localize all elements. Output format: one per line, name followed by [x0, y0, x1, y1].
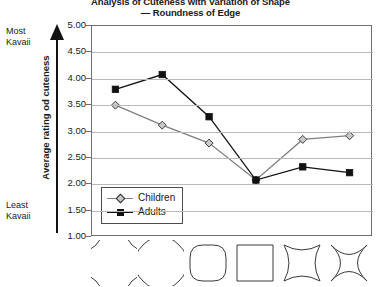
data-point-children-6[interactable]	[346, 132, 354, 140]
data-point-adults-6[interactable]	[346, 169, 352, 175]
shape-icon-1	[91, 240, 137, 286]
shape-icon-5	[279, 240, 325, 286]
chart-title-line1: Analysis of Cuteness with Variation of S…	[91, 0, 290, 7]
gridline	[92, 52, 373, 53]
legend: Children Adults	[101, 187, 183, 224]
concave-square-mild-icon	[284, 245, 320, 281]
y-tick-label: 3.00	[52, 126, 86, 136]
page-title: Analysis of Cuteness with Variation of S…	[0, 0, 381, 18]
y-tick-label: 3.50	[52, 99, 86, 109]
y-tick-label: 2.50	[52, 152, 86, 162]
shape-icon-2	[138, 240, 184, 286]
adults-series-key-icon	[107, 206, 133, 218]
square-icon	[237, 245, 273, 281]
rounded-square-icon	[190, 245, 226, 281]
y-tick-label: 2.00	[52, 178, 86, 188]
chart-title-line2: — Roundness of Edge	[0, 7, 381, 18]
y-tick-label: 4.00	[52, 73, 86, 83]
data-point-adults-5[interactable]	[300, 164, 306, 170]
shape-icon-3	[185, 240, 231, 286]
data-point-children-2[interactable]	[158, 121, 166, 129]
y-tick-label: 5.00	[52, 20, 86, 30]
data-point-adults-1[interactable]	[112, 86, 118, 92]
gridline	[92, 132, 373, 133]
plot-area: Children Adults	[91, 25, 372, 236]
children-series-key-icon	[107, 192, 133, 204]
series-line-adults	[115, 75, 349, 181]
data-point-adults-2[interactable]	[159, 71, 165, 77]
legend-label-children: Children	[138, 193, 175, 203]
gridline	[92, 184, 373, 185]
gridline	[92, 211, 373, 212]
gridline	[92, 105, 373, 106]
y-tick-label: 1.00	[52, 231, 86, 241]
legend-item-adults[interactable]: Adults	[107, 205, 175, 219]
shape-icon-6	[326, 240, 372, 286]
rounded-lobed-convex-icon	[138, 240, 184, 286]
data-point-adults-3[interactable]	[206, 114, 212, 120]
legend-item-children[interactable]: Children	[107, 191, 175, 205]
x-axis-shape-icons	[91, 240, 372, 286]
y-tick-label: 1.50	[52, 205, 86, 215]
gridline	[92, 158, 373, 159]
legend-label-adults: Adults	[138, 207, 166, 217]
y-tick-mark	[85, 236, 91, 237]
shape-icon-4	[232, 240, 278, 286]
quatrefoil-clover-convex-icon	[91, 240, 137, 286]
data-point-adults-4[interactable]	[253, 177, 259, 183]
gridline	[92, 79, 373, 80]
concave-star-strong-icon	[331, 245, 367, 281]
y-tick-label: 4.50	[52, 46, 86, 56]
